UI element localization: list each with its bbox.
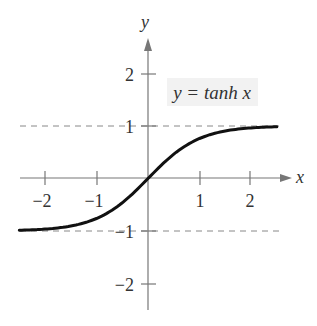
y-axis-arrow-icon	[144, 38, 152, 51]
x-tick-label: −1	[84, 191, 103, 211]
y-tick-label: 2	[125, 65, 134, 85]
x-tick-label: −2	[32, 191, 51, 211]
curve-label: y = tanh x	[171, 82, 251, 103]
x-axis-label: x	[295, 167, 304, 187]
y-tick-label: −2	[115, 275, 134, 295]
x-tick-label: 2	[246, 191, 255, 211]
y-axis-label: y	[139, 12, 149, 32]
x-axis-arrow-icon	[280, 174, 292, 182]
y-tick-label: 1	[125, 117, 134, 137]
x-tick-label: 1	[196, 191, 205, 211]
y-tick-label: −1	[115, 222, 134, 242]
tanh-chart: y = tanh x x y −2 −1 1 2 2 1 −1 −2	[0, 0, 317, 326]
